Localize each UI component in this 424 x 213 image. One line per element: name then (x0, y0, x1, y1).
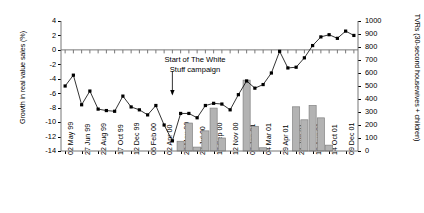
y-tick-label-right: 300 (365, 108, 395, 115)
data-point-marker (262, 83, 265, 86)
data-point-marker (270, 71, 273, 74)
data-point-marker (130, 105, 133, 108)
y-tick-label-left: -2 (30, 61, 56, 68)
chart-figure: Growth in real value sales (%) TVRs (30-… (0, 0, 424, 213)
data-point-marker (97, 108, 100, 111)
bar (309, 106, 316, 152)
data-point-marker (229, 108, 232, 111)
data-point-marker (105, 109, 108, 112)
data-point-marker (204, 104, 207, 107)
data-point-marker (113, 110, 116, 113)
data-point-marker (286, 66, 289, 69)
y-tick-label-right: 200 (365, 121, 395, 128)
data-point-marker (352, 34, 355, 37)
data-point-marker (80, 103, 83, 106)
y-tick-label-left: -10 (30, 118, 56, 125)
data-point-marker (278, 50, 281, 53)
y-tick-label-left: 4 (30, 17, 56, 24)
y-tick-label-right: 600 (365, 69, 395, 76)
data-point-marker (212, 102, 215, 105)
bar (210, 108, 217, 151)
bar (293, 107, 300, 151)
data-point-marker (187, 112, 190, 115)
y-tick-label-left: 0 (30, 46, 56, 53)
y-tick-label-right: 700 (365, 56, 395, 63)
data-point-marker (88, 89, 91, 92)
data-point-marker (154, 104, 157, 107)
plot-area (61, 21, 358, 151)
bar (202, 131, 209, 151)
data-point-marker (196, 116, 199, 119)
annotation-arrowhead (170, 90, 174, 96)
data-point-marker (179, 112, 182, 115)
data-point-marker (245, 79, 248, 82)
data-point-marker (311, 44, 314, 47)
bar (317, 118, 324, 151)
bar (185, 123, 192, 151)
y-tick-mark-right (358, 151, 361, 152)
data-point-marker (303, 56, 306, 59)
data-point-marker (344, 30, 347, 33)
chart-canvas (61, 21, 358, 151)
data-point-marker (171, 139, 174, 142)
bar (326, 145, 333, 151)
data-point-marker (237, 93, 240, 96)
annotation-line-2: Stuff campaign (135, 65, 255, 75)
data-point-marker (64, 84, 67, 87)
annotation-line-1: Start of The White (135, 55, 255, 65)
y-tick-label-right: 500 (365, 82, 395, 89)
bar (243, 80, 250, 151)
data-point-marker (319, 35, 322, 38)
bar (218, 138, 225, 151)
bar (194, 147, 201, 151)
y-tick-label-right: 1000 (365, 17, 395, 24)
y-tick-label-left: -12 (30, 133, 56, 140)
y-tick-label-left: -8 (30, 104, 56, 111)
data-point-marker (295, 66, 298, 69)
y-axis-left-title: Growth in real value sales (%) (18, 13, 27, 143)
annotation-arrow-layer (170, 71, 174, 96)
data-point-marker (336, 37, 339, 40)
y-tick-label-left: -14 (30, 147, 56, 154)
y-tick-label-right: 100 (365, 134, 395, 141)
campaign-annotation: Start of The White Stuff campaign (135, 55, 255, 74)
data-point-marker (146, 113, 149, 116)
y-tick-label-right: 900 (365, 30, 395, 37)
bar (251, 126, 258, 151)
y-tick-label-left: -6 (30, 90, 56, 97)
y-tick-label-right: 800 (365, 43, 395, 50)
y-tick-label-left: 2 (30, 32, 56, 39)
data-point-marker (253, 87, 256, 90)
bar (177, 141, 184, 151)
bar (301, 120, 308, 151)
data-point-marker (163, 123, 166, 126)
data-point-marker (220, 102, 223, 105)
bar-series-layer (177, 80, 333, 151)
data-point-marker (328, 33, 331, 36)
y-tick-label-right: 0 (365, 147, 395, 154)
y-tick-mark-left (58, 151, 61, 152)
y-axis-right-title: TVRs (30-second housewives + children) (413, 13, 422, 143)
data-point-marker (121, 95, 124, 98)
y-tick-label-right: 400 (365, 95, 395, 102)
data-point-marker (72, 74, 75, 77)
y-tick-label-left: -4 (30, 75, 56, 82)
data-point-marker (138, 108, 141, 111)
